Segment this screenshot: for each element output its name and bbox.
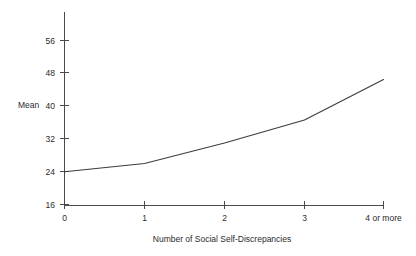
- x-tick-label-2: 2: [222, 213, 227, 223]
- x-tick-label-3: 3: [302, 213, 307, 223]
- y-axis-title: Mean: [18, 100, 40, 110]
- y-tick-label-2: 32: [46, 134, 56, 144]
- y-tick-label-0: 16: [46, 200, 56, 210]
- y-tick-label-3: 40: [46, 101, 56, 111]
- data-line-mean: [65, 80, 384, 172]
- line-chart: 56 48 40 32 24 16 Mean 0 1 2 3 4 or more…: [0, 0, 416, 256]
- y-tick-label-5: 56: [46, 36, 56, 46]
- x-tick-label-4: 4 or more: [365, 213, 402, 223]
- x-tick-label-1: 1: [142, 213, 147, 223]
- x-tick-label-0: 0: [62, 213, 67, 223]
- chart-container: 56 48 40 32 24 16 Mean 0 1 2 3 4 or more…: [0, 0, 416, 256]
- x-axis-title: Number of Social Self-Discrepancies: [153, 234, 291, 244]
- y-tick-label-4: 48: [46, 68, 56, 78]
- y-tick-label-1: 24: [46, 167, 56, 177]
